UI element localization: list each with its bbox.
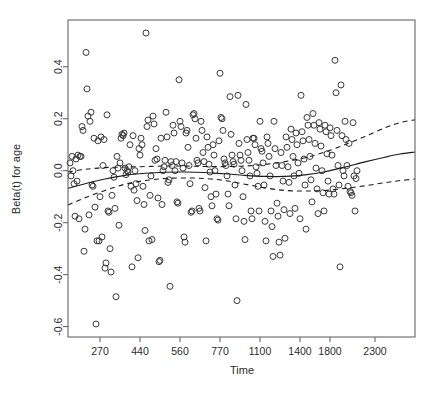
plot-canvas: 2704405607701100140018002300 0.40.20.0-0… [0, 0, 435, 399]
plot-background [0, 0, 435, 399]
x-tick-label: 440 [131, 345, 149, 357]
x-tick-label: 770 [211, 345, 229, 357]
y-tick-label: -0.4 [52, 265, 64, 283]
y-tick-label: -0.2 [52, 213, 64, 231]
x-tick-label: 560 [171, 345, 189, 357]
y-tick-label: 0.4 [52, 59, 64, 74]
y-tick-label: 0.2 [52, 111, 64, 126]
schoenfeld-residual-plot: 2704405607701100140018002300 0.40.20.0-0… [0, 0, 435, 399]
x-tick-label: 1400 [288, 345, 312, 357]
x-tick-label: 1800 [318, 345, 342, 357]
x-tick-label: 1100 [249, 345, 272, 357]
y-tick-label: 0.0 [52, 163, 64, 178]
x-axis-title: Time [230, 364, 254, 376]
x-tick-label: 270 [91, 345, 109, 357]
y-axis-title: Beta(t) for age [10, 144, 22, 214]
y-tick-label: -0.6 [52, 317, 64, 335]
x-tick-label: 2300 [363, 345, 387, 357]
